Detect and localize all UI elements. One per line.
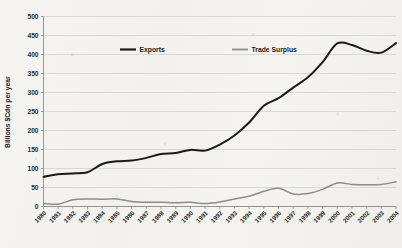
series-line-exports	[44, 42, 397, 177]
y-tick-label: 150	[27, 146, 38, 153]
x-tick-label: 1990	[180, 209, 195, 224]
line-chart: 050100150200250300350400450500 198019811…	[0, 0, 402, 248]
y-tick-label: 50	[31, 184, 39, 191]
x-tick-label: 1986	[121, 209, 136, 224]
y-tick-label: 200	[27, 127, 38, 134]
y-tick-label: 300	[27, 89, 38, 96]
x-tick-label: 2002	[356, 209, 371, 224]
x-tick-label: 1983	[77, 209, 92, 224]
x-tick-label: 1985	[106, 209, 121, 224]
y-tick-label: 500	[27, 13, 38, 20]
legend-label-exports: Exports	[140, 46, 166, 54]
y-axis-title-group: Billions $Cdn per year	[4, 76, 12, 148]
legend-label-trade-surplus: Trade Surplus	[252, 46, 298, 54]
series-line-trade-surplus	[44, 182, 397, 205]
x-tick-label: 1981	[47, 209, 62, 224]
y-axis: 050100150200250300350400450500	[27, 13, 43, 210]
series-layer	[44, 42, 397, 204]
y-tick-label: 0	[35, 203, 39, 210]
y-tick-label: 250	[27, 108, 38, 115]
y-tick-label: 350	[27, 70, 38, 77]
y-tick-label: 100	[27, 165, 38, 172]
chart-legend: ExportsTrade Surplus	[120, 46, 297, 54]
x-tick-label: 1982	[62, 209, 77, 224]
x-tick-label: 1987	[136, 209, 151, 224]
x-tick-label: 1994	[238, 209, 253, 224]
x-tick-label: 1998	[297, 209, 312, 224]
x-tick-label: 2004	[385, 209, 400, 224]
x-tick-label: 1984	[91, 209, 106, 224]
x-tick-label: 1989	[165, 209, 180, 224]
x-tick-label: 1991	[194, 209, 209, 224]
x-tick-label: 1999	[312, 209, 327, 224]
y-tick-label: 450	[27, 32, 38, 39]
x-tick-label: 2001	[341, 209, 356, 224]
x-tick-label: 1995	[253, 209, 268, 224]
x-tick-label: 1993	[224, 209, 239, 224]
x-axis: 1980198119821983198419851986198719881989…	[33, 207, 401, 224]
x-tick-label: 1996	[268, 209, 283, 224]
x-tick-label: 1997	[282, 209, 297, 224]
grid-layer	[44, 17, 397, 207]
x-tick-label: 2003	[371, 209, 386, 224]
x-tick-label: 1988	[150, 209, 165, 224]
x-tick-label: 1980	[33, 209, 48, 224]
x-tick-label: 1992	[209, 209, 224, 224]
y-axis-title: Billions $Cdn per year	[4, 76, 12, 148]
x-tick-label: 2000	[326, 209, 341, 224]
y-tick-label: 400	[27, 51, 38, 58]
